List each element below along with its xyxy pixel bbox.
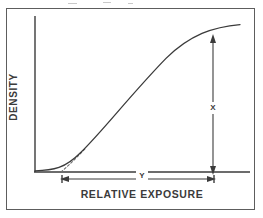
density-range-label: X bbox=[206, 102, 220, 114]
characteristic-curve-line bbox=[35, 25, 240, 171]
y-axis-title: DENSITY bbox=[9, 67, 19, 127]
density-range-arrowhead-top bbox=[210, 34, 216, 43]
characteristic-curve-figure: DENSITY RELATIVE EXPOSURE X Y bbox=[0, 0, 263, 218]
density-range-arrowhead-bottom bbox=[210, 166, 216, 175]
x-axis-title: RELATIVE EXPOSURE bbox=[34, 189, 250, 200]
exposure-range-label: Y bbox=[136, 171, 148, 181]
plot-area bbox=[0, 0, 263, 218]
